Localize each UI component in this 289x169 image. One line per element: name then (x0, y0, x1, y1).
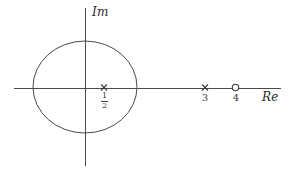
zero-marker-four (232, 84, 238, 90)
pole-label-three: 3 (199, 92, 211, 103)
pole-marker-three (202, 85, 208, 91)
pole-label-half: 1 2 (100, 92, 109, 110)
complex-plane-figure: Im Re 1 2 3 4 (0, 0, 289, 169)
imaginary-axis-label: Im (92, 5, 109, 19)
zero-label-four: 4 (230, 92, 242, 103)
plot-canvas (0, 0, 289, 169)
real-axis-label: Re (262, 90, 279, 104)
fraction-denominator: 2 (101, 102, 108, 110)
pole-marker-half (101, 85, 107, 91)
fraction-numerator: 1 (101, 92, 108, 100)
